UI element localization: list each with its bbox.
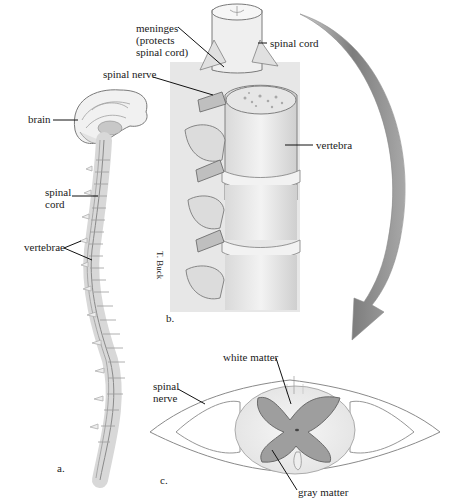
label-spinal-nerve-c-line1: spinal bbox=[153, 380, 179, 392]
panel-b-drawing bbox=[170, 4, 300, 312]
label-meninges-line1: meninges bbox=[136, 22, 178, 34]
label-spinal-nerve-c-line2: nerve bbox=[153, 392, 177, 404]
panel-a-drawing bbox=[74, 90, 147, 480]
label-spinal-cord-a-line1: spinal bbox=[45, 186, 71, 198]
spinal-cord-anatomy-figure: brain spinal cord vertebrae a. meninges … bbox=[0, 0, 453, 503]
label-gray-matter: gray matter bbox=[298, 486, 348, 498]
illustration-canvas bbox=[0, 0, 453, 503]
label-vertebra: vertebra bbox=[316, 139, 352, 151]
label-meninges-line3: spinal cord) bbox=[136, 46, 188, 58]
label-white-matter: white matter bbox=[223, 351, 278, 363]
panel-c-drawing bbox=[150, 376, 440, 474]
label-vertebrae: vertebrae bbox=[24, 241, 65, 253]
label-meninges-line2: (protects bbox=[136, 34, 174, 46]
label-spinal-nerve-b: spinal nerve bbox=[103, 68, 156, 80]
panel-c-letter: c. bbox=[160, 474, 168, 486]
label-brain: brain bbox=[28, 113, 51, 125]
transition-arrow bbox=[300, 14, 405, 340]
label-spinal-cord-b: spinal cord bbox=[270, 37, 319, 49]
artist-credit: T. Buck bbox=[155, 251, 165, 279]
label-spinal-cord-a-line2: cord bbox=[45, 198, 65, 210]
panel-b-letter: b. bbox=[166, 312, 174, 324]
panel-a-letter: a. bbox=[57, 462, 65, 474]
